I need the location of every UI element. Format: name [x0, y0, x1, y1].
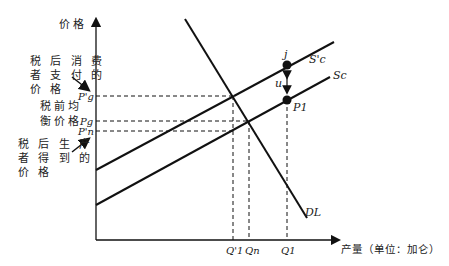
tick-p-prime-n: P'n [78, 124, 94, 139]
consumer-price-label-3: 价 格 [30, 82, 65, 97]
tick-q-prime-1: Q'1 [226, 243, 243, 258]
supply-with-tax-curve [96, 96, 234, 170]
producer-price-label-3: 价 格 [18, 165, 53, 180]
point-j-label: j [284, 47, 287, 62]
x-axis-label: 产量（单位：加仑） [341, 242, 440, 257]
producer-price-label-1: 税 后 生 产 [18, 137, 94, 152]
tax-gap-label: u [275, 76, 282, 91]
demand-curve [185, 19, 307, 218]
point-p1 [283, 96, 292, 105]
demand-label: DL [305, 205, 321, 220]
tick-q1: Q1 [281, 243, 296, 258]
equilibrium-price-label-2: 衡价格 [40, 114, 82, 129]
tick-p-prime-g: P'g [78, 89, 94, 104]
producer-price-label-2: 者 得 到 的 [18, 151, 94, 166]
y-axis-label: 价格 [59, 17, 87, 32]
consumer-price-label-1: 税 后 消 费 [30, 54, 106, 69]
equilibrium-price-label-1: 税前均 [40, 99, 82, 114]
consumer-price-label-2: 者 支 付 的 [30, 68, 106, 83]
supply-with-tax-label: S'c [309, 52, 326, 67]
tick-qn: Qn [245, 243, 260, 258]
supply-label: Sc [333, 68, 347, 83]
tax-incidence-diagram [0, 0, 449, 266]
point-p1-label: P1 [293, 100, 307, 115]
